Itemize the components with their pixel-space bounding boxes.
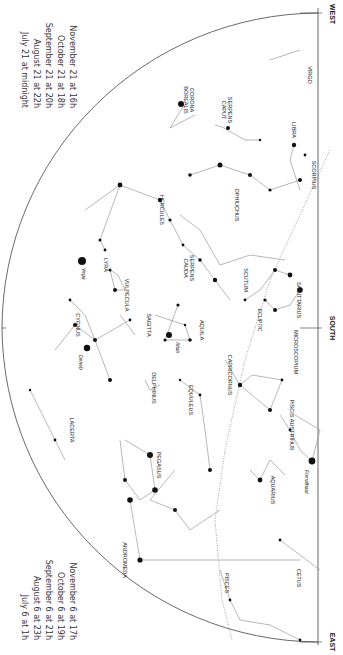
constellation-label-sagitta: SAGITTA bbox=[146, 313, 152, 336]
east-label: EAST bbox=[329, 633, 336, 652]
time-row: August 21 at 22h bbox=[32, 39, 41, 108]
times-bottom-table: July 6 at 1hAugust 6 at 23hSeptember 6 a… bbox=[20, 560, 77, 640]
constellation-label-equuleus: EQUULEUS bbox=[188, 385, 194, 416]
time-row: October 21 at 18h bbox=[56, 35, 65, 108]
time-row: July 6 at 1h bbox=[20, 594, 29, 640]
constellation-label-ecliptic: ECLIPTIC bbox=[257, 309, 263, 332]
constellation-label-virgo: VIRGO bbox=[307, 66, 313, 84]
times-top-table: July 21 at midnightAugust 21 at 22hSepte… bbox=[20, 23, 77, 108]
time-row: September 6 at 21h bbox=[44, 560, 53, 640]
constellation-label-cygnus: CYGNUS bbox=[75, 313, 81, 337]
time-row: September 21 at 20h bbox=[44, 23, 53, 108]
time-row: November 6 at 17h bbox=[68, 562, 77, 640]
constellation-label-vulpecula: VULPECULA bbox=[124, 279, 130, 312]
constellation-label-scorpius: SCORPIUS bbox=[311, 161, 317, 190]
constellation-label-microscopium: MICROSCOPIUM bbox=[293, 330, 299, 374]
time-row: October 6 at 19h bbox=[56, 572, 65, 640]
constellation-label-piscis-austrinus: PISCIS AUSTRINUS bbox=[289, 399, 295, 450]
constellation-label-scutum: SCUTUM bbox=[243, 268, 249, 292]
star-chart: WEST SOUTH EAST ZENITH Vega Deneb Altair… bbox=[0, 0, 343, 655]
star-labels: Vega Deneb Altair Fomalhaut bbox=[78, 268, 310, 494]
constellation-label-ophiuchus: OPHIUCHUS bbox=[234, 188, 240, 221]
constellation-label-pegasus: PEGASUS bbox=[156, 452, 162, 479]
constellation-label-capricornus: CAPRICORNUS bbox=[227, 355, 233, 396]
constellation-label-aquila: AQUILA bbox=[199, 320, 205, 341]
star-label-fomalhaut: Fomalhaut bbox=[304, 470, 310, 494]
constellation-label-cetus: CETUS bbox=[296, 569, 302, 588]
star-label-deneb: Deneb bbox=[78, 355, 84, 370]
constellation-label-serpens-caput: SERPENSCAPUT bbox=[221, 97, 233, 124]
west-label: WEST bbox=[329, 4, 336, 25]
constellation-lines bbox=[30, 50, 320, 640]
south-label: SOUTH bbox=[329, 316, 336, 341]
constellation-label-corona-borealis: CORONABOREALIS bbox=[183, 86, 195, 114]
constellation-label-libra: LIBRA bbox=[291, 122, 297, 138]
constellation-label-andromeda: ANDROMEDA bbox=[122, 542, 128, 578]
time-row: November 21 at 16h bbox=[68, 25, 77, 108]
constellation-label-serpens-cauda: SERPENSCAUDA bbox=[183, 255, 195, 282]
constellation-label-lyra: LYRA bbox=[103, 258, 109, 272]
constellation-label-delphinus: DELPHINUS bbox=[151, 372, 157, 404]
constellation-labels: VIRGOCORONABOREALISSERPENSCAPUTLIBRAHERC… bbox=[69, 66, 317, 593]
time-row: July 21 at midnight bbox=[20, 31, 29, 108]
time-row: August 6 at 23h bbox=[32, 576, 41, 640]
constellation-label-aquarius: AQUARIUS bbox=[270, 476, 276, 505]
constellation-label-lacerta: LACERTA bbox=[69, 418, 75, 443]
constellation-label-pisces: PISCES bbox=[224, 573, 230, 594]
constellation-label-sagittarius: SAGITTARIUS bbox=[296, 282, 302, 319]
constellation-label-hercules: HERCULES bbox=[159, 195, 165, 225]
star-label-altair: Altair bbox=[175, 341, 181, 354]
star-label-vega: Vega bbox=[81, 268, 87, 280]
